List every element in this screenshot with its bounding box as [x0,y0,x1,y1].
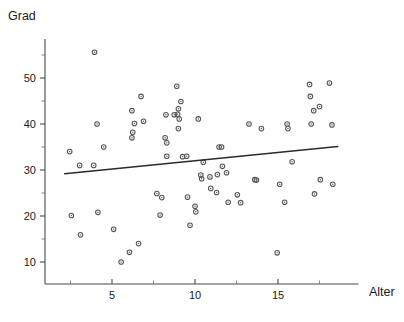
x-tick-label: 15 [272,289,284,301]
data-point-center [96,123,98,125]
data-point-center [201,178,203,180]
data-point-center [216,192,218,194]
data-point-center [97,212,99,214]
data-point-center [71,215,73,217]
data-point-center [176,86,178,88]
data-point-center [261,128,263,130]
data-point-center [113,229,115,231]
data-point-center [166,155,168,157]
data-point-center [79,165,81,167]
data-point-center [187,196,189,198]
data-point-center [286,123,288,125]
data-point-center [203,161,205,163]
data-point-center [131,110,133,112]
data-point-center [198,118,200,120]
data-point-center [248,123,250,125]
data-point-center [189,224,191,226]
data-point-center [178,108,180,110]
y-axis-title: Grad [8,9,36,23]
y-tick-label: 10 [24,256,36,268]
data-point-center [178,118,180,120]
data-point-center [93,165,95,167]
data-point-center [310,123,312,125]
data-point-center [180,101,182,103]
data-point-center [165,114,167,116]
data-point-center [217,174,219,176]
data-point-center [276,252,278,254]
data-point-center [143,120,145,122]
plot-background [0,0,404,322]
data-point-center [309,84,311,86]
data-point-center [291,161,293,163]
data-point-center [209,176,211,178]
x-tick-label: 5 [109,289,115,301]
data-point-center [156,193,158,195]
data-point-center [240,202,242,204]
data-point-center [256,179,258,181]
data-point-center [159,214,161,216]
data-point-center [200,174,202,176]
data-point-center [94,51,96,53]
data-point-center [287,128,289,130]
data-point-center [164,137,166,139]
data-point-center [310,96,312,98]
data-point-center [194,206,196,208]
data-point-center [227,201,229,203]
data-point-center [131,137,133,139]
data-point-center [331,124,333,126]
data-point-center [332,184,334,186]
data-point-center [138,243,140,245]
y-tick-label: 20 [24,210,36,222]
data-point-center [195,211,197,213]
data-point-center [69,151,71,153]
y-tick-label: 40 [24,118,36,130]
x-axis-title: Alter [369,285,395,299]
data-point-center [132,132,134,134]
data-point-center [80,234,82,236]
data-point-center [182,156,184,158]
data-point-center [186,155,188,157]
data-point-center [103,146,105,148]
y-tick-label: 50 [24,72,36,84]
data-point-center [319,106,321,108]
data-point-center [140,96,142,98]
x-tick-label: 10 [189,289,201,301]
y-tick-label: 30 [24,164,36,176]
scatter-plot-figure: 1020304050 51015 Grad Alter [0,0,404,322]
data-point-center [129,252,131,254]
data-point-center [161,197,163,199]
data-point-center [284,201,286,203]
data-point-center [329,82,331,84]
data-point-center [134,123,136,125]
data-point-center [279,184,281,186]
data-point-center [314,193,316,195]
data-point-center [178,128,180,130]
data-point-center [237,194,239,196]
data-point-center [320,179,322,181]
data-point-center [166,142,168,144]
data-point-center [226,172,228,174]
data-point-center [120,261,122,263]
data-point-center [177,114,179,116]
data-point-center [221,146,223,148]
data-point-center [210,188,212,190]
data-point-center [222,166,224,168]
data-point-center [313,110,315,112]
